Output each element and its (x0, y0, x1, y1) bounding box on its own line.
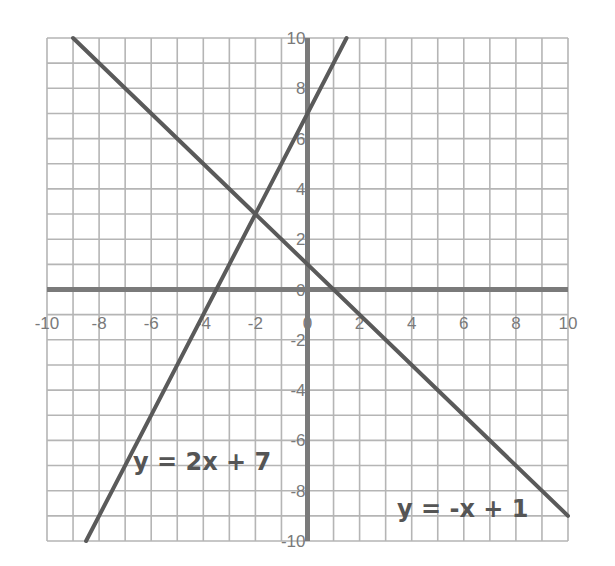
y-tick-label: -6 (290, 431, 305, 450)
x-tick-label: 4 (407, 314, 416, 333)
y-tick-label: 0 (296, 281, 305, 300)
x-tick-label: 0 (303, 314, 312, 333)
series-line (73, 38, 568, 516)
x-tick-label: 8 (511, 314, 520, 333)
y-tick-label: 2 (296, 230, 305, 249)
x-tick-label: -8 (92, 314, 107, 333)
x-tick-label: 6 (459, 314, 468, 333)
y-tick-label: 10 (287, 29, 306, 48)
x-tick-label: -2 (248, 314, 263, 333)
equation-label-line1: y = 2x + 7 (133, 448, 271, 476)
x-tick-label: -6 (144, 314, 159, 333)
y-tick-label: -8 (290, 482, 305, 501)
y-tick-label: 8 (296, 79, 305, 98)
x-tick-label: -10 (35, 314, 60, 333)
y-tick-label: -4 (290, 381, 305, 400)
chart-canvas: -10-8-6-4-202468101086420-2-4-6-8-10 y =… (0, 0, 615, 566)
y-tick-label: -10 (281, 532, 306, 551)
equation-label-line2: y = -x + 1 (397, 495, 528, 523)
x-tick-label: 10 (559, 314, 578, 333)
y-tick-label: 4 (296, 180, 305, 199)
y-tick-label: -2 (290, 331, 305, 350)
